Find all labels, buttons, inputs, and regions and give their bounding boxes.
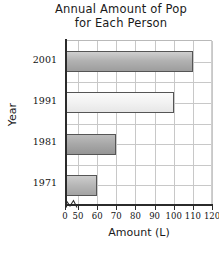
x-tick-mark [97, 206, 98, 210]
chart-title-line-2: for Each Person [75, 16, 168, 30]
y-tick-label-1981: 1981 [33, 136, 61, 147]
bar-1991 [65, 92, 174, 113]
vertical-gridline [212, 41, 213, 205]
x-tick-label: 120 [204, 211, 219, 221]
x-tick-label: 50 [73, 211, 84, 221]
x-tick-mark [174, 206, 175, 210]
x-tick-mark [78, 206, 79, 210]
bar-chart: Annual Amount of Popfor Each Person 0506… [0, 0, 219, 255]
x-tick-mark [116, 206, 117, 210]
x-tick-mark [193, 206, 194, 210]
x-tick-label: 90 [149, 211, 160, 221]
x-axis-title: Amount (L) [65, 226, 213, 239]
y-tick-label-1991: 1991 [33, 95, 61, 106]
x-tick-label: 110 [185, 211, 201, 221]
horizontal-gridline [65, 124, 211, 125]
y-tick-label-2001: 2001 [33, 54, 61, 65]
x-tick-mark [212, 206, 213, 210]
x-tick-label: 70 [111, 211, 122, 221]
chart-title: Annual Amount of Popfor Each Person [28, 2, 214, 30]
y-tick-label-1971: 1971 [33, 177, 61, 188]
x-tick-label: 0 [62, 211, 67, 221]
bar-1981 [65, 134, 116, 155]
bar-2001 [65, 51, 193, 72]
x-tick-mark [65, 206, 66, 210]
bar-1971 [65, 175, 97, 196]
chart-title-line-1: Annual Amount of Pop [55, 2, 187, 16]
plot-area [65, 40, 212, 205]
y-axis-line [65, 39, 67, 206]
horizontal-gridline [65, 82, 211, 83]
horizontal-gridline [65, 165, 211, 166]
x-tick-mark [155, 206, 156, 210]
x-tick-label: 80 [130, 211, 141, 221]
x-axis-line [65, 204, 213, 206]
x-tick-label: 60 [92, 211, 103, 221]
x-tick-mark [135, 206, 136, 210]
x-tick-label: 100 [166, 211, 182, 221]
y-axis-title: Year [6, 80, 19, 150]
